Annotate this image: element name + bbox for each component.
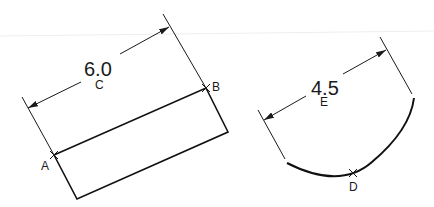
point-label-b: B	[212, 80, 220, 94]
extension-line-left	[22, 97, 54, 155]
arc-extension-line-left	[258, 110, 285, 159]
faint-guide-line	[0, 31, 434, 36]
center-label-e: E	[320, 95, 328, 109]
dimension-text-6-0[interactable]: 6.0	[84, 58, 112, 80]
dimension-line-right-segment	[120, 27, 169, 54]
arc-extension-line-right	[380, 37, 412, 94]
right-figure: 4.5 E D	[258, 37, 414, 194]
arc-shape[interactable]	[287, 98, 414, 176]
center-label-c: C	[95, 78, 104, 92]
drawing-canvas: 6.0 C A B 4.5 E D	[0, 0, 434, 207]
point-a-marker[interactable]	[50, 151, 58, 159]
point-b-marker[interactable]	[202, 84, 210, 92]
point-label-a: A	[41, 159, 49, 173]
dimension-line-left-segment	[28, 82, 81, 108]
arc-dimension-line-left-segment	[264, 96, 306, 120]
left-figure: 6.0 C A B	[22, 14, 228, 199]
arc-dimension-line-right-segment	[343, 50, 386, 74]
extension-line-right	[163, 14, 206, 88]
point-label-d: D	[349, 180, 358, 194]
rectangle-shape[interactable]	[54, 88, 228, 199]
